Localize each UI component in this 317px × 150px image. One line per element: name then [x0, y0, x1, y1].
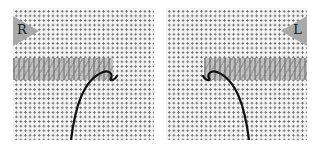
right-handed-panel: R: [13, 8, 154, 140]
thread-line: [13, 8, 154, 140]
left-handed-panel: L: [166, 8, 307, 140]
thread-line: [166, 8, 307, 140]
hand-badge-label: R: [17, 22, 27, 37]
hand-badge-label: L: [293, 22, 302, 37]
